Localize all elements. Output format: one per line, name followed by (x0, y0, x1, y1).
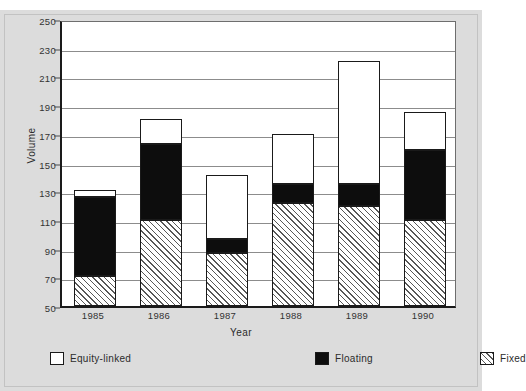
bar-segment-equity-linked-1987 (206, 175, 248, 238)
legend-item-fixed[interactable]: Fixed (480, 352, 526, 365)
bar-segment-floating-1990 (404, 150, 446, 220)
legend-swatch-floating-icon (315, 352, 329, 365)
bar-segment-fixed-1986 (140, 220, 182, 306)
bar-segment-equity-linked-1988 (272, 134, 314, 184)
bar-group-1987 (206, 175, 248, 306)
y-axis-ticks: 507090110130150170190210230250 (0, 21, 60, 308)
bar-segment-equity-linked-1986 (140, 119, 182, 143)
x-axis-title: Year (0, 327, 482, 338)
bar-segment-floating-1986 (140, 144, 182, 220)
bar-segment-floating-1989 (338, 184, 380, 206)
bar-segment-floating-1985 (74, 197, 116, 276)
x-tick-label-1989: 1989 (346, 310, 368, 321)
legend-swatch-equity-icon (50, 352, 64, 365)
bar-segment-fixed-1987 (206, 253, 248, 306)
x-tick-label-1986: 1986 (148, 310, 170, 321)
bar-group-1985 (74, 190, 116, 306)
x-axis-labels: 198519861987198819891990 (60, 310, 456, 326)
bar-segment-floating-1987 (206, 239, 248, 253)
bar-segment-fixed-1989 (338, 206, 380, 306)
bar-group-1986 (140, 119, 182, 306)
x-tick-label-1988: 1988 (280, 310, 302, 321)
legend-label: Fixed (500, 353, 526, 364)
chart-legend: Equity-linkedFloatingFixed (50, 352, 450, 372)
legend-label: Equity-linked (70, 353, 131, 364)
bar-segment-fixed-1988 (272, 203, 314, 306)
legend-item-floating[interactable]: Floating (315, 352, 373, 365)
bar-segment-floating-1988 (272, 184, 314, 203)
bar-group-1989 (338, 61, 380, 306)
bar-segment-equity-linked-1985 (74, 190, 116, 197)
bar-group-1990 (404, 112, 446, 306)
legend-label: Floating (335, 353, 373, 364)
caption-strip (0, 0, 482, 10)
bar-segment-equity-linked-1990 (404, 112, 446, 149)
bar-segment-fixed-1990 (404, 220, 446, 306)
x-tick-label-1990: 1990 (412, 310, 434, 321)
plot-area (60, 21, 456, 308)
legend-item-equity[interactable]: Equity-linked (50, 352, 131, 365)
bars-layer (62, 22, 455, 306)
x-tick-label-1985: 1985 (82, 310, 104, 321)
bar-group-1988 (272, 134, 314, 306)
bar-segment-fixed-1985 (74, 276, 116, 306)
bar-segment-equity-linked-1989 (338, 61, 380, 184)
x-tick-label-1987: 1987 (214, 310, 236, 321)
legend-swatch-fixed-icon (480, 352, 494, 365)
